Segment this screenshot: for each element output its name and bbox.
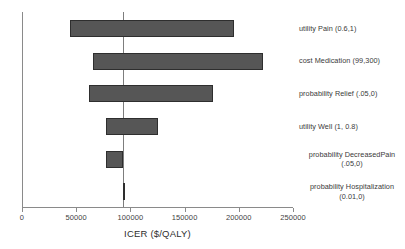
parameter-label-line1: cost Medication (99,300)	[299, 56, 380, 65]
x-axis-tick	[76, 208, 77, 212]
tornado-bar[interactable]	[123, 183, 125, 200]
parameter-label-line1: probability Hospitalization	[310, 182, 394, 191]
tornado-bar[interactable]	[93, 53, 263, 70]
x-axis-tick-label: 0	[20, 213, 24, 222]
parameter-label-line1: utility Well (1, 0.8)	[299, 122, 358, 131]
x-axis-tick	[293, 208, 294, 212]
bar-row	[23, 175, 293, 208]
tornado-bar[interactable]	[70, 20, 235, 37]
x-axis-tick	[239, 208, 240, 212]
x-axis-tick-label: 150000	[172, 213, 198, 222]
x-axis-tick-label: 250000	[280, 213, 306, 222]
bar-row	[23, 77, 293, 110]
tornado-bar[interactable]	[89, 85, 213, 102]
parameter-label: utility Well (1, 0.8)	[299, 122, 405, 132]
x-axis-title: ICER ($/QALY)	[22, 228, 293, 239]
tornado-diagram: 050000100000150000200000250000 ICER ($/Q…	[0, 0, 405, 249]
parameter-label-list: utility Pain (0.6,1)cost Medication (99,…	[299, 12, 405, 208]
parameter-label: probability Hospitalization(0.01,0)	[299, 182, 405, 201]
parameter-label: probability Relief (.05,0)	[299, 89, 405, 99]
bar-row	[23, 12, 293, 45]
parameter-label: cost Medication (99,300)	[299, 56, 405, 66]
parameter-label-line1: utility Pain (0.6,1)	[299, 24, 356, 33]
tornado-bar[interactable]	[106, 151, 123, 168]
x-axis-tick	[130, 208, 131, 212]
parameter-label-line1: probability DecreasedPain	[309, 150, 395, 159]
parameter-label-line2: (.05,0)	[299, 159, 405, 169]
x-axis-tick	[185, 208, 186, 212]
x-axis-tick-label: 50000	[66, 213, 87, 222]
bar-row	[23, 110, 293, 143]
x-axis-tick-label: 200000	[226, 213, 252, 222]
parameter-label-line1: probability Relief (.05,0)	[299, 89, 377, 98]
tornado-bar[interactable]	[106, 118, 158, 135]
x-axis-tick-label: 100000	[118, 213, 144, 222]
plot-area	[22, 12, 293, 208]
parameter-label: probability DecreasedPain(.05,0)	[299, 150, 405, 169]
parameter-label-line2: (0.01,0)	[299, 192, 405, 202]
bar-row	[23, 143, 293, 176]
x-axis-tick	[22, 208, 23, 212]
bar-row	[23, 45, 293, 78]
parameter-label: utility Pain (0.6,1)	[299, 24, 405, 34]
